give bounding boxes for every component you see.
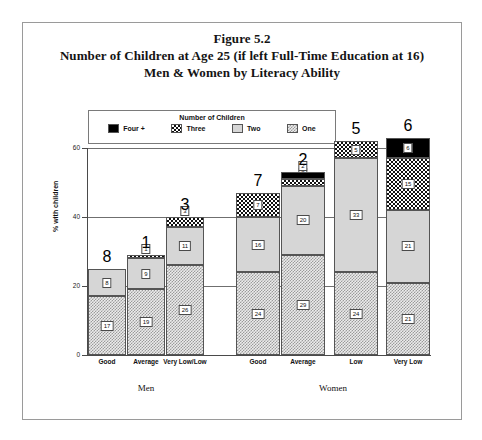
bar-value-label: 24 (252, 309, 265, 319)
bar-value-label: 21 (402, 241, 415, 251)
chart-legend: Number of Children Four + Three Two One (88, 110, 336, 144)
bar-value-label: 16 (252, 240, 265, 250)
bar-value-label: 33 (350, 210, 363, 220)
bar-segment-one: 24 (236, 272, 280, 355)
bar-value-label: 17 (101, 321, 114, 331)
bar-value-label: 19 (140, 317, 153, 327)
y-axis-label: % with children (52, 181, 59, 232)
bar-segment-two: 16 (236, 217, 280, 272)
figure-title-line-1: Figure 5.2 (22, 30, 462, 47)
bar-women-very-low: 21211566 (386, 148, 430, 355)
group-label-men: Men (96, 383, 196, 393)
y-tick-label-0: 0 (54, 351, 80, 358)
x-label-women-very-low: Very Low (368, 358, 448, 365)
legend-label-three: Three (186, 125, 205, 132)
group-label-women: Women (283, 383, 383, 393)
figure-title: Figure 5.2 Number of Children at Age 25 … (22, 30, 462, 81)
bar-segment-two: 8 (88, 269, 126, 297)
legend-item-two: Two (232, 124, 260, 133)
legend-label-four-plus: Four + (123, 125, 145, 132)
bar-women-low: 243355 (334, 148, 378, 355)
bar-segment-three: 2 (281, 179, 325, 186)
bar-segment-three: 3 (166, 217, 204, 227)
y-tick-label-20: 20 (54, 282, 80, 289)
legend-item-four-plus: Four + (108, 124, 145, 133)
bar-segment-one: 19 (127, 289, 165, 355)
bar-value-label: 26 (179, 305, 192, 315)
bar-segment-one: 17 (88, 296, 126, 355)
bar-men-average: 19911 (127, 148, 165, 355)
bar-series-layer: 1788199112611332416772920222243355212115… (88, 148, 430, 355)
x-label-men-very-low-low: Very Low/Low (145, 358, 225, 365)
bar-top-value-label: 5 (352, 120, 361, 138)
bar-value-label: 6 (403, 143, 412, 153)
bar-top-value-label: 3 (181, 196, 190, 214)
legend-swatch-three-icon (171, 124, 182, 133)
bar-women-average: 2920222 (281, 148, 325, 355)
bar-value-label: 9 (141, 269, 150, 279)
bar-segment-four-: 2 (281, 172, 325, 179)
bar-segment-two: 9 (127, 258, 165, 289)
bar-value-label: 5 (351, 145, 360, 155)
figure-title-line-3: Men & Women by Literacy Ability (22, 64, 462, 81)
bar-value-label: 8 (102, 278, 111, 288)
x-axis-line (87, 355, 431, 356)
bar-value-label: 11 (179, 241, 191, 251)
bar-women-good: 241677 (236, 148, 280, 355)
legend-swatch-two-icon (232, 124, 243, 133)
bar-segment-three: 7 (236, 193, 280, 217)
bar-segment-one: 29 (281, 255, 325, 355)
legend-title: Number of Children (89, 114, 335, 121)
bar-segment-three: 1 (127, 255, 165, 258)
bar-value-label: 20 (297, 215, 310, 225)
legend-swatch-one-icon (287, 124, 298, 133)
bar-segment-one: 26 (166, 265, 204, 355)
bar-value-label: 15 (402, 179, 415, 189)
legend-label-two: Two (247, 125, 260, 132)
legend-swatch-four-plus-icon (108, 124, 119, 133)
bar-segment-two: 21 (386, 210, 430, 282)
bar-men-very-low-low: 261133 (166, 148, 204, 355)
bar-segment-three: 5 (334, 141, 378, 158)
bar-value-label: 7 (253, 200, 262, 210)
legend-item-one: One (287, 124, 316, 133)
y-tick-label-60: 60 (54, 144, 80, 151)
bar-top-value-label: 7 (254, 172, 263, 190)
bar-value-label: 21 (402, 314, 415, 324)
bar-segment-three: 15 (386, 158, 430, 210)
bar-segment-two: 33 (334, 158, 378, 272)
legend-item-three: Three (171, 124, 205, 133)
bar-value-label: 29 (297, 300, 310, 310)
bar-segment-one: 21 (386, 283, 430, 355)
bar-top-value-label: 2 (299, 151, 308, 169)
plot-area: 1788199112611332416772920222243355212115… (88, 148, 430, 355)
bar-value-label: 24 (350, 309, 363, 319)
bar-segment-four-: 6 (386, 138, 430, 159)
bar-segment-two: 11 (166, 227, 204, 265)
bar-men-good: 1788 (88, 148, 126, 355)
bar-top-value-label: 1 (142, 234, 151, 252)
bar-top-value-label: 6 (404, 117, 413, 135)
bar-segment-one: 24 (334, 272, 378, 355)
figure-page: Figure 5.2 Number of Children at Age 25 … (0, 0, 482, 440)
y-tick-label-40: 40 (54, 213, 80, 220)
legend-items: Four + Three Two One (89, 124, 335, 133)
y-tick-0 (82, 355, 88, 356)
legend-label-one: One (302, 125, 316, 132)
bar-top-value-label: 8 (103, 248, 112, 266)
bar-segment-two: 20 (281, 186, 325, 255)
figure-title-line-2: Number of Children at Age 25 (if left Fu… (22, 47, 462, 64)
